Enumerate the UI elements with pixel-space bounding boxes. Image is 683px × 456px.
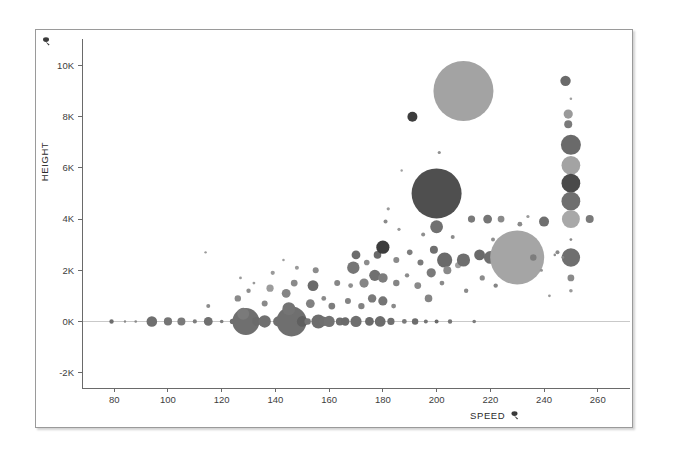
bubble-point[interactable] (562, 156, 581, 175)
bubble-point[interactable] (177, 317, 185, 325)
chart-svg[interactable]: 80100120140160180200220240260 -2K0K2K4K6… (0, 0, 683, 456)
bubble-point[interactable] (491, 238, 495, 242)
bubble-point[interactable] (291, 280, 298, 287)
bubble-point[interactable] (433, 61, 493, 121)
bubble-point[interactable] (483, 215, 492, 224)
bubble-point[interactable] (438, 151, 441, 154)
bubble-point[interactable] (109, 319, 113, 323)
bubble-point[interactable] (204, 317, 213, 326)
bubble-point[interactable] (235, 295, 241, 301)
bubble-point[interactable] (258, 315, 270, 327)
bubble-point[interactable] (220, 320, 224, 324)
bubble-point[interactable] (412, 318, 418, 324)
bubble-point[interactable] (526, 215, 529, 218)
bubble-chart[interactable]: 80100120140160180200220240260 -2K0K2K4K6… (0, 0, 683, 456)
y-axis-sort-icon[interactable] (43, 37, 50, 45)
bubble-point[interactable] (555, 250, 559, 254)
bubble-point[interactable] (271, 271, 275, 275)
bubble-point[interactable] (548, 294, 551, 297)
bubble-point[interactable] (295, 266, 299, 270)
bubble-point[interactable] (457, 253, 470, 266)
bubble-point[interactable] (193, 319, 197, 323)
bubble-point[interactable] (464, 289, 468, 293)
bubble-point[interactable] (430, 220, 443, 233)
bubble-point[interactable] (435, 319, 439, 323)
bubble-point[interactable] (405, 273, 409, 277)
bubble-point[interactable] (376, 241, 389, 254)
bubble-point[interactable] (378, 296, 387, 305)
bubble-point[interactable] (472, 320, 476, 324)
bubble-point[interactable] (530, 254, 536, 260)
bubble-point[interactable] (393, 280, 399, 286)
bubble-point[interactable] (324, 316, 335, 327)
bubble-point[interactable] (387, 318, 394, 325)
bubble-point[interactable] (417, 260, 423, 266)
bubble-point[interactable] (393, 257, 399, 263)
bubble-point[interactable] (407, 112, 417, 122)
bubble-point[interactable] (437, 252, 452, 267)
bubble-point[interactable] (397, 228, 400, 231)
bubble-point[interactable] (282, 302, 295, 315)
bubble-point[interactable] (378, 273, 388, 283)
bubble-point[interactable] (425, 295, 433, 303)
bubble-point[interactable] (562, 174, 581, 193)
bubble-point[interactable] (239, 277, 242, 280)
bubble-point[interactable] (384, 220, 388, 224)
bubble-point[interactable] (564, 110, 573, 119)
bubble-point[interactable] (313, 267, 319, 273)
bubble-point[interactable] (474, 250, 485, 261)
bubble-point[interactable] (282, 259, 285, 262)
bubble-point[interactable] (561, 135, 581, 155)
bubble-point[interactable] (561, 256, 564, 259)
bubble-point[interactable] (540, 269, 543, 272)
bubble-point[interactable] (412, 168, 462, 218)
bubble-point[interactable] (448, 319, 452, 323)
bubble-point[interactable] (246, 289, 250, 293)
bubble-point[interactable] (134, 320, 137, 323)
bubble-point[interactable] (568, 275, 575, 282)
bubble-point[interactable] (387, 207, 390, 210)
bubble-point[interactable] (164, 317, 172, 325)
bubble-point[interactable] (328, 303, 335, 310)
bubble-point[interactable] (204, 251, 206, 253)
bubble-point[interactable] (345, 298, 351, 304)
bubble-point[interactable] (358, 303, 364, 309)
bubble-point[interactable] (570, 238, 573, 241)
bubble-point[interactable] (498, 216, 505, 223)
bubble-point[interactable] (562, 248, 580, 266)
bubble-point[interactable] (569, 289, 573, 293)
bubble-point[interactable] (321, 296, 326, 301)
bubble-point[interactable] (427, 268, 436, 277)
bubble-point[interactable] (407, 250, 413, 256)
bubble-point[interactable] (365, 317, 374, 326)
bubble-point[interactable] (350, 316, 361, 327)
bubble-point[interactable] (253, 282, 256, 285)
bubble-point[interactable] (359, 278, 368, 287)
bubble-point[interactable] (562, 192, 581, 211)
bubble-point[interactable] (147, 316, 158, 327)
bubble-point[interactable] (493, 283, 497, 287)
bubble-point[interactable] (443, 266, 451, 274)
bubble-point[interactable] (440, 281, 445, 286)
bubble-point[interactable] (402, 319, 407, 324)
bubble-point[interactable] (400, 169, 402, 171)
bubble-point[interactable] (364, 260, 370, 266)
bubble-point[interactable] (480, 275, 485, 280)
bubble-point[interactable] (368, 294, 376, 302)
bubble-point[interactable] (468, 215, 475, 222)
bubble-point[interactable] (424, 319, 428, 323)
bubble-point[interactable] (306, 299, 315, 308)
bubble-point[interactable] (560, 76, 570, 86)
bubble-point[interactable] (421, 232, 425, 236)
bubble-point[interactable] (414, 282, 421, 289)
bubble-point[interactable] (262, 301, 268, 307)
bubble-point[interactable] (347, 261, 359, 273)
bubble-series[interactable] (109, 61, 593, 336)
bubble-point[interactable] (539, 217, 549, 227)
bubble-point[interactable] (341, 317, 349, 325)
bubble-point[interactable] (553, 254, 556, 257)
bubble-point[interactable] (564, 120, 572, 128)
bubble-point[interactable] (237, 308, 249, 320)
bubble-point[interactable] (308, 280, 319, 291)
bubble-point[interactable] (348, 283, 353, 288)
